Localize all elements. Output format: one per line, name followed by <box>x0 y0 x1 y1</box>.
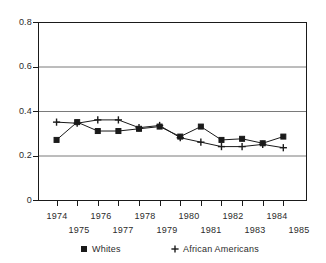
data-point-marker-square <box>95 129 100 134</box>
chart-container: 0.8 0.6 0.4 0.2 0 1974 1976 1978 1980 19… <box>0 0 326 263</box>
plot-area <box>0 0 326 263</box>
data-point-marker-square <box>116 129 121 134</box>
data-point-marker-square <box>219 137 224 142</box>
data-point-marker-square <box>281 134 286 139</box>
series-line <box>57 122 284 143</box>
data-point-marker-square <box>82 247 87 252</box>
data-point-marker-square <box>54 137 59 142</box>
data-point-marker-square <box>198 124 203 129</box>
series-whites <box>54 120 286 146</box>
legend <box>82 245 179 252</box>
data-point-marker-square <box>240 136 245 141</box>
series-african-americans <box>53 116 287 151</box>
series-line <box>57 120 284 148</box>
